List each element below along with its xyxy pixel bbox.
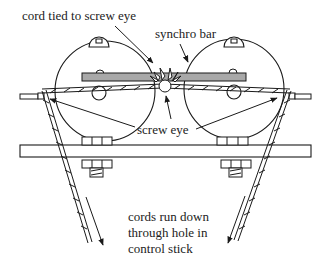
left-guide-tube <box>20 93 44 99</box>
label-cords-line2: through hole in <box>128 225 208 240</box>
label-cords-line1: cords run down <box>128 209 209 224</box>
right-direction-arrow <box>228 196 245 243</box>
screw-eye-arrow-center <box>166 96 171 119</box>
synchro-bar-arrow <box>180 44 188 62</box>
right-guide-tube <box>289 93 311 99</box>
label-screw-eye: screw eye <box>137 122 189 137</box>
label-synchro-bar: synchro bar <box>155 26 217 41</box>
label-cord-tied: cord tied to screw eye <box>22 8 136 23</box>
label-cords-line3: control stick <box>128 241 193 256</box>
synchro-bar-diagram: cord tied to screw eye synchro bar screw… <box>0 0 329 269</box>
left-direction-arrow <box>86 197 103 245</box>
